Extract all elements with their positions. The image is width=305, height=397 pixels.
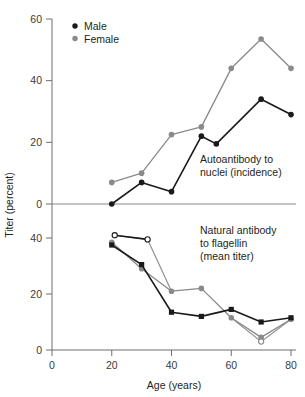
data-point-marker xyxy=(288,315,293,320)
data-point-marker xyxy=(169,189,175,195)
data-point-marker xyxy=(109,201,115,207)
chart-canvas: 020406002040 020406080 Age (years) Titer… xyxy=(0,0,305,397)
data-point-marker xyxy=(259,339,264,344)
annotation-lower: Natural antibody to flagellin (mean tite… xyxy=(200,224,277,262)
data-point-marker xyxy=(228,315,234,321)
data-point-marker xyxy=(258,36,264,42)
data-point-marker xyxy=(109,242,114,247)
data-point-marker xyxy=(259,319,264,324)
data-point-marker xyxy=(288,66,294,72)
y-tick-label: 40 xyxy=(30,232,42,244)
series-upper-male xyxy=(109,96,294,206)
data-point-marker xyxy=(139,170,145,176)
x-tick-label: 80 xyxy=(285,359,297,371)
data-series-layer xyxy=(109,36,294,344)
y-tick-label: 20 xyxy=(30,288,42,300)
x-tick-label: 40 xyxy=(166,359,178,371)
x-tick-label: 20 xyxy=(106,359,118,371)
annotation-upper: Autoantibody to nuclei (incidence) xyxy=(200,153,282,178)
data-point-marker xyxy=(169,310,174,315)
legend: Male Female xyxy=(72,20,119,45)
y-axis-tick-labels: 020406002040 xyxy=(30,13,42,356)
series-line-male-open xyxy=(115,235,148,239)
data-point-marker xyxy=(199,124,205,130)
data-point-marker xyxy=(199,133,205,139)
leader-line xyxy=(148,239,172,291)
panel-upper-series xyxy=(109,36,294,207)
series-line-male xyxy=(112,99,291,204)
data-point-marker xyxy=(109,180,115,186)
legend-marker-male-icon xyxy=(72,23,77,28)
axis-group xyxy=(46,19,296,356)
data-point-marker xyxy=(169,288,175,294)
x-axis-title: Age (years) xyxy=(147,379,201,391)
x-axis-ticks xyxy=(52,350,291,356)
data-point-marker xyxy=(229,307,234,312)
y-tick-label: 40 xyxy=(30,74,42,86)
y-tick-label: 0 xyxy=(36,198,42,210)
legend-label-female: Female xyxy=(84,33,119,45)
y-axis-title: Titer (percent) xyxy=(3,172,15,238)
series-lower-male-open xyxy=(112,233,150,242)
chart-figure: 020406002040 020406080 Age (years) Titer… xyxy=(0,0,305,397)
series-lower-female-open xyxy=(259,339,264,344)
x-tick-label: 60 xyxy=(225,359,237,371)
x-tick-label: 0 xyxy=(49,359,55,371)
data-point-marker xyxy=(214,141,220,147)
legend-label-male: Male xyxy=(84,20,107,32)
x-axis-tick-labels: 020406080 xyxy=(49,359,297,371)
y-tick-label: 0 xyxy=(36,344,42,356)
annotation-lower-line1: Natural antibody xyxy=(200,224,277,236)
data-point-marker xyxy=(199,286,205,292)
legend-marker-female-icon xyxy=(72,36,77,41)
data-point-marker xyxy=(139,180,145,186)
annotation-upper-line2: nuclei (incidence) xyxy=(200,166,282,178)
annotation-lower-line2: to flagellin xyxy=(200,237,247,249)
data-point-marker xyxy=(139,262,144,267)
y-tick-label: 20 xyxy=(30,136,42,148)
data-point-marker xyxy=(169,132,175,138)
data-point-marker xyxy=(258,96,264,102)
annotation-upper-line1: Autoantibody to xyxy=(200,153,273,165)
data-point-marker xyxy=(112,233,117,238)
data-point-marker xyxy=(288,112,294,118)
y-tick-label: 60 xyxy=(30,13,42,25)
data-point-marker xyxy=(145,237,150,242)
data-point-marker xyxy=(228,66,234,72)
annotation-lower-line3: (mean titer) xyxy=(200,250,254,262)
y-axis-ticks xyxy=(46,19,52,350)
data-point-marker xyxy=(199,314,204,319)
